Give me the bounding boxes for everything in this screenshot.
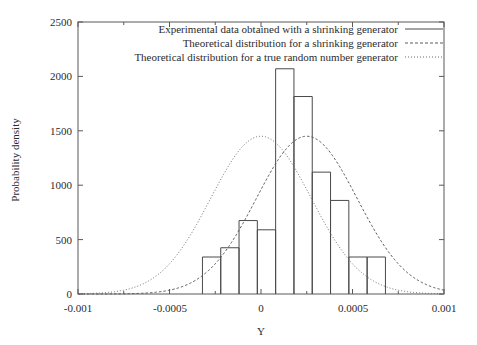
chart-figure: Probability density 2500 2000 1500 1000 … [0, 0, 477, 345]
gaussian-curve-trng [78, 136, 444, 294]
plot-area [0, 0, 477, 345]
histogram-outline [202, 69, 385, 294]
gaussian-curve-shrinking [78, 136, 444, 294]
